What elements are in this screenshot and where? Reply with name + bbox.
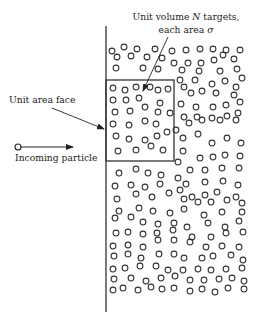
target-particle bbox=[140, 231, 146, 237]
target-particle bbox=[171, 237, 177, 243]
target-particle bbox=[183, 47, 189, 53]
target-particle bbox=[171, 220, 177, 226]
target-particle bbox=[187, 288, 193, 294]
target-particle bbox=[125, 242, 131, 248]
target-particle bbox=[159, 55, 165, 61]
target-particle bbox=[228, 252, 234, 258]
target-particle bbox=[140, 244, 146, 250]
target-particle bbox=[137, 263, 143, 269]
target-particle bbox=[136, 95, 142, 101]
target-particle bbox=[112, 183, 118, 189]
target-particle bbox=[198, 60, 204, 66]
target-particle bbox=[236, 165, 242, 171]
target-particle bbox=[180, 135, 186, 141]
target-particle bbox=[110, 266, 116, 272]
target-particle bbox=[177, 187, 183, 193]
target-particle bbox=[237, 47, 243, 53]
target-particle bbox=[165, 267, 171, 273]
target-particle bbox=[196, 68, 202, 74]
target-particle bbox=[142, 137, 148, 143]
target-particle bbox=[175, 159, 181, 165]
target-particle bbox=[239, 265, 245, 271]
target-particle bbox=[143, 278, 149, 284]
target-particle bbox=[210, 104, 216, 110]
target-particle bbox=[181, 255, 187, 261]
target-particle bbox=[145, 170, 151, 176]
target-particle bbox=[201, 212, 207, 218]
target-particle bbox=[187, 277, 193, 283]
target-particle bbox=[241, 278, 247, 284]
target-particle bbox=[109, 48, 115, 54]
targets-label-line2: each area σ bbox=[159, 24, 215, 35]
target-particle bbox=[240, 257, 246, 263]
target-particle bbox=[209, 140, 215, 146]
target-particle bbox=[154, 133, 160, 139]
target-particle bbox=[155, 109, 161, 115]
target-particle bbox=[181, 206, 187, 212]
target-particle bbox=[239, 75, 245, 81]
target-particle bbox=[133, 191, 139, 197]
target-particle bbox=[184, 224, 190, 230]
target-particle bbox=[114, 196, 120, 202]
target-particle bbox=[175, 175, 181, 181]
target-particle bbox=[219, 209, 225, 215]
target-particle bbox=[157, 181, 163, 187]
target-particle bbox=[185, 60, 191, 66]
target-particle bbox=[142, 104, 148, 110]
target-particle bbox=[187, 239, 193, 245]
target-particle bbox=[236, 218, 242, 224]
target-particle bbox=[181, 196, 187, 202]
target-particle bbox=[222, 224, 228, 230]
target-particle bbox=[142, 184, 148, 190]
target-particle bbox=[212, 289, 218, 295]
target-particle bbox=[183, 181, 189, 187]
target-particle bbox=[155, 87, 161, 93]
target-particle bbox=[142, 118, 148, 124]
target-particle bbox=[205, 220, 211, 226]
target-particle bbox=[133, 147, 139, 153]
target-particle bbox=[234, 66, 240, 72]
target-particle bbox=[159, 286, 165, 292]
target-particle bbox=[222, 152, 228, 158]
target-particle bbox=[211, 57, 217, 63]
target-particle bbox=[235, 182, 241, 188]
target-particle bbox=[223, 102, 229, 108]
target-particle bbox=[203, 244, 209, 250]
unit-area-face-arrow bbox=[52, 108, 104, 129]
target-particle bbox=[170, 227, 176, 233]
target-particle bbox=[177, 77, 183, 83]
target-particle bbox=[220, 52, 226, 58]
target-particle bbox=[125, 229, 131, 235]
target-particle bbox=[236, 244, 242, 250]
target-particle bbox=[240, 229, 246, 235]
target-particle bbox=[166, 190, 172, 196]
target-particle bbox=[224, 197, 230, 203]
target-particle bbox=[181, 114, 187, 120]
target-particle bbox=[197, 46, 203, 52]
target-particle bbox=[154, 230, 160, 236]
target-particle bbox=[158, 172, 164, 178]
target-particle bbox=[199, 255, 205, 261]
target-particle bbox=[233, 117, 239, 123]
target-particle bbox=[120, 285, 126, 291]
target-particle bbox=[195, 199, 201, 205]
target-particle bbox=[110, 121, 116, 127]
target-particle bbox=[216, 276, 222, 282]
target-particle bbox=[188, 90, 194, 96]
target-particle bbox=[128, 214, 134, 220]
target-particle bbox=[152, 46, 158, 52]
target-particle bbox=[237, 99, 243, 105]
target-particle bbox=[208, 199, 214, 205]
target-particle bbox=[147, 84, 153, 90]
target-particle bbox=[214, 189, 220, 195]
incoming-particle-icon bbox=[15, 144, 21, 150]
target-particle bbox=[224, 135, 230, 141]
target-particle bbox=[181, 84, 187, 90]
target-particle bbox=[112, 215, 118, 221]
target-particle bbox=[199, 286, 205, 292]
target-particle bbox=[222, 78, 228, 84]
target-particle bbox=[223, 266, 229, 272]
target-particle bbox=[155, 221, 161, 227]
target-particle bbox=[180, 148, 186, 154]
target-particle bbox=[209, 115, 215, 121]
